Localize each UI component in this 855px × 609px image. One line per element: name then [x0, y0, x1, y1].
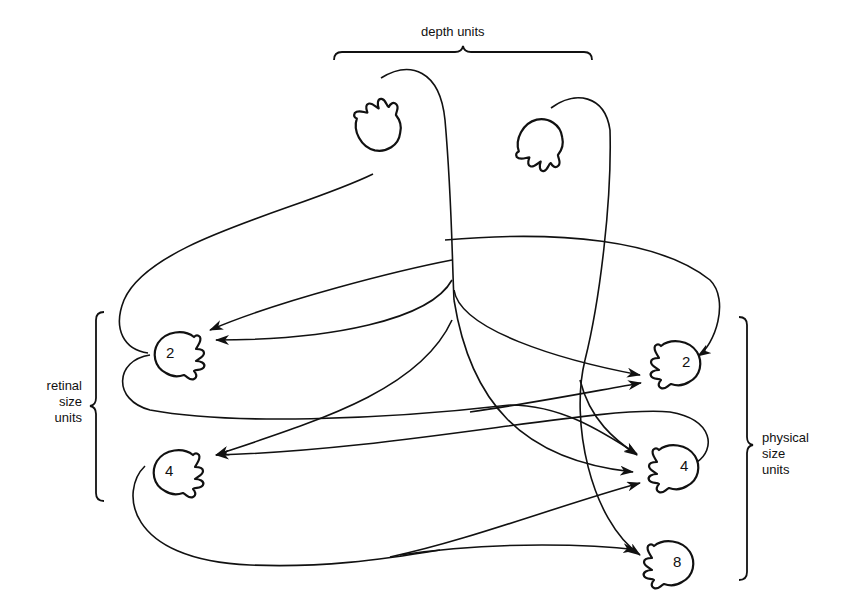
diagram-canvas: 2 4 2 4 8 depth units retinal size units…	[0, 0, 855, 609]
depth-unit-b	[511, 113, 572, 176]
physical-8-label: 8	[673, 553, 681, 570]
physical-unit-2	[651, 341, 701, 388]
physical-label-line-2: size	[762, 446, 809, 462]
retinal-label-line-3: units	[30, 410, 82, 426]
physical-2-label: 2	[682, 353, 690, 370]
retinal-label-line-2: size	[30, 394, 82, 410]
retinal-units-brace	[90, 312, 104, 501]
retinal-label-line-1: retinal	[30, 378, 82, 394]
retinal-2-label: 2	[166, 344, 174, 361]
physical-label-line-3: units	[762, 462, 809, 478]
physical-unit-8	[644, 541, 694, 588]
retinal-size-units-label: retinal size units	[30, 378, 82, 426]
retinal-unit-4	[154, 450, 204, 497]
retinal-4-label: 4	[165, 462, 173, 479]
physical-label-line-1: physical	[762, 430, 809, 446]
physical-units-brace	[739, 317, 753, 580]
retinal-unit-2	[155, 332, 205, 379]
depth-unit-a	[349, 94, 410, 157]
depth-units-brace	[334, 46, 592, 60]
physical-unit-4	[649, 445, 699, 492]
depth-b-connections	[216, 98, 720, 555]
physical-4-label: 4	[680, 457, 688, 474]
physical-size-units-label: physical size units	[762, 430, 809, 478]
retinal-4-connections	[133, 466, 640, 566]
network-svg	[0, 0, 855, 609]
depth-units-label: depth units	[421, 24, 485, 40]
